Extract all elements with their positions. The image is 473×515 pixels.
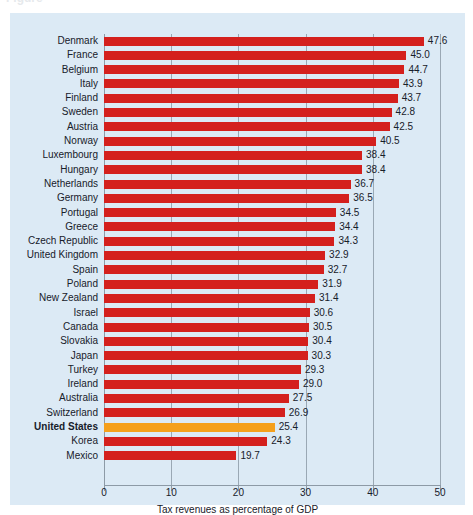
category-label: Denmark bbox=[57, 34, 98, 48]
bar-row: United Kingdom32.9 bbox=[104, 248, 440, 262]
bar bbox=[104, 222, 335, 231]
bar bbox=[104, 408, 285, 417]
bar-row: Poland31.9 bbox=[104, 277, 440, 291]
category-label: Netherlands bbox=[44, 177, 98, 191]
category-label: Finland bbox=[65, 91, 98, 105]
bar bbox=[104, 237, 334, 246]
category-label: Spain bbox=[72, 263, 98, 277]
value-label: 38.4 bbox=[362, 148, 385, 162]
value-label: 25.4 bbox=[275, 420, 298, 434]
bar-row: Finland43.7 bbox=[104, 91, 440, 105]
bar bbox=[104, 365, 301, 374]
bar bbox=[104, 108, 392, 117]
value-label: 32.7 bbox=[324, 263, 347, 277]
value-label: 42.8 bbox=[392, 105, 415, 119]
cropped-title-strip: Figure bbox=[0, 0, 473, 9]
bar bbox=[104, 65, 404, 74]
value-label: 43.9 bbox=[399, 77, 422, 91]
value-label: 47.6 bbox=[424, 34, 447, 48]
bar-row: Germany36.5 bbox=[104, 191, 440, 205]
bar-row: Luxembourg38.4 bbox=[104, 148, 440, 162]
bar-row: Norway40.5 bbox=[104, 134, 440, 148]
bar bbox=[104, 151, 362, 160]
value-label: 40.5 bbox=[376, 134, 399, 148]
value-label: 36.7 bbox=[351, 177, 374, 191]
bar bbox=[104, 351, 308, 360]
category-label: Greece bbox=[65, 220, 98, 234]
x-axis-title: Tax revenues as percentage of GDP bbox=[10, 504, 465, 515]
bar-row: Denmark47.6 bbox=[104, 34, 440, 48]
category-label: Ireland bbox=[67, 377, 98, 391]
category-label: Japan bbox=[71, 349, 98, 363]
bar-row: Australia27.5 bbox=[104, 391, 440, 405]
value-label: 43.7 bbox=[398, 91, 421, 105]
value-label: 30.5 bbox=[309, 320, 332, 334]
bar bbox=[104, 265, 324, 274]
value-label: 30.4 bbox=[308, 334, 331, 348]
value-label: 27.5 bbox=[289, 391, 312, 405]
category-label: Slovakia bbox=[60, 334, 98, 348]
bar-row: Spain32.7 bbox=[104, 263, 440, 277]
ghost-title: Figure bbox=[6, 0, 43, 5]
bar bbox=[104, 79, 399, 88]
bar-row: Turkey29.3 bbox=[104, 363, 440, 377]
category-label: Hungary bbox=[60, 163, 98, 177]
bar-row: Slovakia30.4 bbox=[104, 334, 440, 348]
value-label: 42.5 bbox=[390, 120, 413, 134]
category-label: Canada bbox=[63, 320, 98, 334]
plot-area: Denmark47.6France45.0Belgium44.7Italy43.… bbox=[104, 34, 440, 485]
value-label: 36.5 bbox=[349, 191, 372, 205]
bar bbox=[104, 308, 310, 317]
bar bbox=[104, 137, 376, 146]
category-label: New Zealand bbox=[39, 291, 98, 305]
value-label: 30.3 bbox=[308, 349, 331, 363]
category-label: Belgium bbox=[62, 63, 98, 77]
bar-row: Belgium44.7 bbox=[104, 63, 440, 77]
bar bbox=[104, 51, 406, 60]
bar bbox=[104, 251, 325, 260]
value-label: 31.4 bbox=[315, 291, 338, 305]
x-tick-label-10: 10 bbox=[166, 487, 177, 498]
bar bbox=[104, 165, 362, 174]
category-label: Norway bbox=[64, 134, 98, 148]
category-label: Turkey bbox=[68, 363, 98, 377]
bar-row: Italy43.9 bbox=[104, 77, 440, 91]
category-label: United Kingdom bbox=[27, 248, 98, 262]
value-label: 44.7 bbox=[404, 63, 427, 77]
bar-row: Netherlands36.7 bbox=[104, 177, 440, 191]
x-tick-label-20: 20 bbox=[233, 487, 244, 498]
category-label: Luxembourg bbox=[42, 148, 98, 162]
bar bbox=[104, 194, 349, 203]
x-tick-label-40: 40 bbox=[367, 487, 378, 498]
bar-row: Japan30.3 bbox=[104, 349, 440, 363]
value-label: 45.0 bbox=[406, 48, 429, 62]
bar-row: Greece34.4 bbox=[104, 220, 440, 234]
category-label: United States bbox=[34, 420, 98, 434]
gridline-50 bbox=[440, 34, 441, 485]
value-label: 32.9 bbox=[325, 248, 348, 262]
bar-rows: Denmark47.6France45.0Belgium44.7Italy43.… bbox=[104, 34, 440, 463]
category-label: Israel bbox=[74, 306, 98, 320]
value-label: 34.4 bbox=[335, 220, 358, 234]
value-label: 26.9 bbox=[285, 406, 308, 420]
category-label: Poland bbox=[67, 277, 98, 291]
bar-row: Austria42.5 bbox=[104, 120, 440, 134]
x-tick-label-50: 50 bbox=[434, 487, 445, 498]
bar bbox=[104, 437, 267, 446]
category-label: Sweden bbox=[62, 105, 98, 119]
value-label: 38.4 bbox=[362, 163, 385, 177]
value-label: 29.0 bbox=[299, 377, 322, 391]
category-label: Korea bbox=[71, 434, 98, 448]
bar-row: France45.0 bbox=[104, 48, 440, 62]
chart-panel: Denmark47.6France45.0Belgium44.7Italy43.… bbox=[10, 13, 465, 505]
bar-row: Sweden42.8 bbox=[104, 105, 440, 119]
bar bbox=[104, 380, 299, 389]
x-tick-label-30: 30 bbox=[300, 487, 311, 498]
bar-row: United States25.4 bbox=[104, 420, 440, 434]
bar-row: Canada30.5 bbox=[104, 320, 440, 334]
bar-row: Ireland29.0 bbox=[104, 377, 440, 391]
value-label: 30.6 bbox=[310, 306, 333, 320]
value-label: 19.7 bbox=[236, 449, 259, 463]
category-label: Mexico bbox=[66, 449, 98, 463]
value-label: 31.9 bbox=[318, 277, 341, 291]
